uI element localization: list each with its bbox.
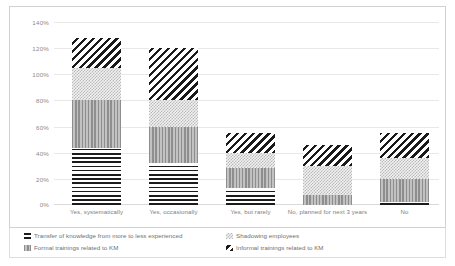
bar-segment-transfer-knowledge: [226, 188, 275, 205]
legend-item-shadowing-employees[interactable]: Shadowing employees: [226, 232, 299, 239]
xtick-label-no-planned: No, planned for next 3 years: [285, 208, 371, 216]
bar-segment-formal-trainings: [380, 179, 429, 203]
chart-plot-frame: 140% 120% 100% 80% 60% 40% 20% 0%: [9, 6, 446, 228]
ytick-label-60: 60%: [36, 123, 49, 130]
bar-segment-shadowing: [149, 100, 198, 126]
xtick-label-no: No: [362, 208, 448, 216]
ytick-label-0: 0%: [40, 201, 49, 208]
ytick-label-140: 140%: [32, 19, 49, 26]
legend-label-informal-trainings: Informal trainings related to KM: [236, 244, 324, 251]
bar-segment-shadowing: [380, 158, 429, 179]
bar-segment-formal-trainings: [149, 127, 198, 164]
bar-segment-formal-trainings: [72, 100, 121, 147]
legend-key-vertical-lines-icon: [24, 245, 31, 251]
bar-no[interactable]: [380, 133, 429, 205]
bar-segment-informal-trainings: [380, 133, 429, 158]
xtick-label-yes-but-rarely: Yes, but rarely: [208, 208, 294, 216]
xtick-label-yes-systematically: Yes, systematically: [54, 208, 140, 216]
legend-label-shadowing-employees: Shadowing employees: [236, 232, 299, 239]
bar-segment-transfer-knowledge: [149, 163, 198, 205]
gridline-140: 140%: [54, 22, 439, 23]
bar-segment-formal-trainings: [226, 168, 275, 188]
bar-no-planned-next-3-years[interactable]: [303, 145, 352, 205]
bar-segment-transfer-knowledge: [72, 148, 121, 206]
bar-segment-shadowing: [303, 166, 352, 195]
legend-key-diagonal-hatch-icon: [226, 245, 233, 251]
bar-yes-systematically[interactable]: [72, 38, 121, 205]
bar-segment-informal-trainings: [149, 48, 198, 100]
bar-segment-informal-trainings: [72, 38, 121, 68]
legend-key-horizontal-lines-icon: [24, 233, 31, 239]
chart-legend: Transfer of knowledge from more to less …: [9, 228, 446, 258]
bar-segment-transfer-knowledge: [380, 202, 429, 205]
bar-yes-occasionally[interactable]: [149, 48, 198, 205]
bar-segment-shadowing: [226, 153, 275, 169]
chart-screenshot: 140% 120% 100% 80% 60% 40% 20% 0%: [0, 0, 455, 266]
legend-item-informal-trainings[interactable]: Informal trainings related to KM: [226, 244, 324, 251]
legend-item-formal-trainings[interactable]: Formal trainings related to KM: [24, 244, 118, 251]
bar-segment-shadowing: [72, 68, 121, 101]
xtick-label-yes-occasionally: Yes, occasionally: [131, 208, 217, 216]
legend-label-transfer-knowledge: Transfer of knowledge from more to less …: [34, 232, 182, 239]
ytick-label-100: 100%: [32, 71, 49, 78]
ytick-label-40: 40%: [36, 149, 49, 156]
ytick-label-80: 80%: [36, 97, 49, 104]
bar-yes-but-rarely[interactable]: [226, 133, 275, 205]
legend-label-formal-trainings: Formal trainings related to KM: [34, 244, 118, 251]
plot-area: 140% 120% 100% 80% 60% 40% 20% 0%: [54, 22, 439, 205]
legend-item-transfer-knowledge[interactable]: Transfer of knowledge from more to less …: [24, 232, 182, 239]
ytick-label-20: 20%: [36, 175, 49, 182]
bar-segment-formal-trainings: [303, 195, 352, 205]
bar-segment-informal-trainings: [226, 133, 275, 153]
ytick-label-120: 120%: [32, 45, 49, 52]
legend-key-checker-dots-icon: [226, 233, 233, 239]
bar-segment-informal-trainings: [303, 145, 352, 166]
